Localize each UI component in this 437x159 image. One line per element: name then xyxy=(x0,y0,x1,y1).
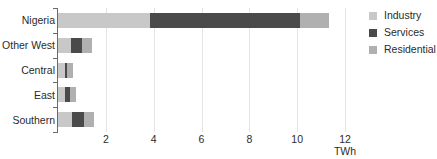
y-axis-category-labels: NigeriaOther WestCentralEastSouthern xyxy=(0,0,55,159)
gridline-12 xyxy=(345,8,346,132)
bar-segment-industry xyxy=(58,38,71,53)
bar-row xyxy=(58,63,345,78)
category-label-nigeria: Nigeria xyxy=(22,15,55,26)
category-label-east: East xyxy=(34,90,55,101)
bar-row xyxy=(58,112,345,127)
bar-segment-residential xyxy=(70,87,76,102)
bar-segment-residential xyxy=(300,13,330,28)
x-tick-label-6: 6 xyxy=(199,134,205,145)
legend-label: Services xyxy=(384,27,424,38)
legend-swatch-industry-icon xyxy=(369,12,377,20)
bar-segment-industry xyxy=(58,87,65,102)
bar-segment-industry xyxy=(58,13,150,28)
bar-segment-services xyxy=(71,38,82,53)
bar-segment-services xyxy=(150,13,299,28)
category-label-central: Central xyxy=(21,65,55,76)
category-label-other-west: Other West xyxy=(2,40,55,51)
legend-swatch-services-icon xyxy=(369,29,377,37)
x-tick-label-8: 8 xyxy=(246,134,252,145)
bar-row xyxy=(58,13,345,28)
stacked-bar-chart: NigeriaOther WestCentralEastSouthern 246… xyxy=(0,0,437,159)
x-tick-label-10: 10 xyxy=(291,134,303,145)
x-tick-label-12: 12 xyxy=(339,134,351,145)
bar-row xyxy=(58,38,345,53)
x-tick-label-4: 4 xyxy=(151,134,157,145)
legend-label: Residential xyxy=(384,44,436,55)
bar-segment-residential xyxy=(84,112,94,127)
bar-segment-industry xyxy=(58,63,65,78)
legend-item-residential[interactable]: Residential xyxy=(369,41,436,58)
x-axis-title: TWh xyxy=(334,146,356,157)
bar-segment-residential xyxy=(82,38,92,53)
bar-row xyxy=(58,87,345,102)
category-label-southern: Southern xyxy=(12,115,55,126)
legend-item-services[interactable]: Services xyxy=(369,24,436,41)
chart-legend: IndustryServicesResidential xyxy=(369,7,436,58)
plot-area xyxy=(58,8,345,132)
legend-item-industry[interactable]: Industry xyxy=(369,7,436,24)
bar-segment-industry xyxy=(58,112,72,127)
bar-segment-services xyxy=(72,112,84,127)
legend-label: Industry xyxy=(384,10,421,21)
x-tick-label-2: 2 xyxy=(103,134,109,145)
legend-swatch-residential-icon xyxy=(369,46,377,54)
bar-segment-residential xyxy=(67,63,73,78)
